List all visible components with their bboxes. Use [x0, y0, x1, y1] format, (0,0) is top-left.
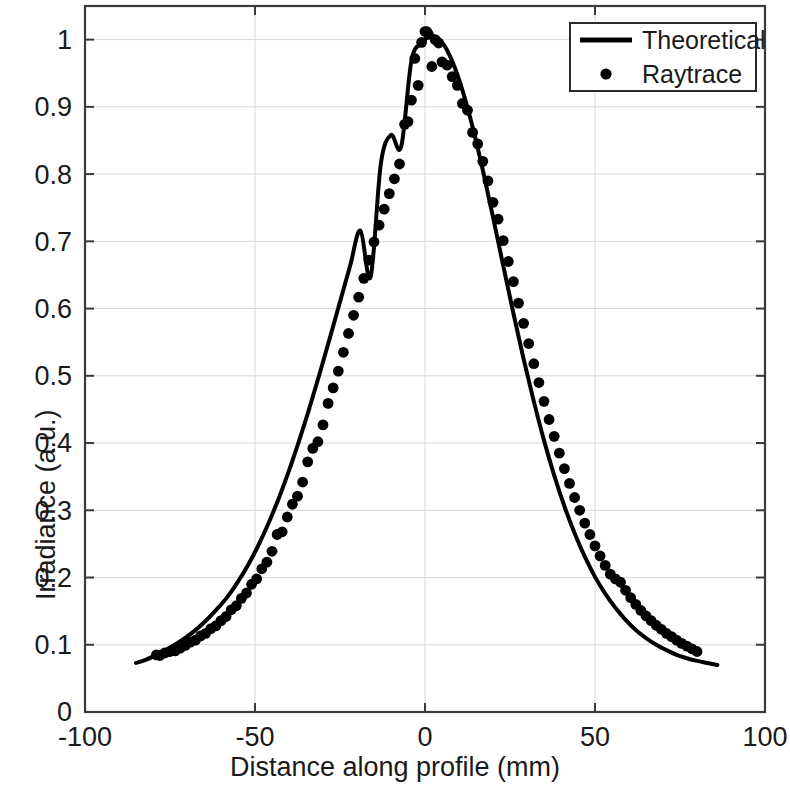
raytrace-point	[409, 53, 420, 64]
raytrace-point	[389, 173, 400, 184]
data-series	[136, 26, 717, 665]
y-tick-label: 0.6	[34, 294, 72, 324]
x-tick-label: 100	[742, 722, 787, 752]
raytrace-point	[579, 518, 590, 529]
raytrace-point	[302, 456, 313, 467]
raytrace-point	[338, 347, 349, 358]
raytrace-point	[472, 138, 483, 149]
x-axis-title: Distance along profile (mm)	[0, 752, 790, 783]
raytrace-point	[333, 366, 344, 377]
raytrace-point	[364, 255, 375, 266]
raytrace-point	[369, 237, 380, 248]
raytrace-point	[523, 338, 534, 349]
raytrace-point	[262, 557, 273, 568]
raytrace-point	[488, 197, 499, 208]
raytrace-point	[483, 175, 494, 186]
raytrace-point	[452, 80, 463, 91]
y-axis-title: Irradiance (a.u.)	[31, 409, 62, 600]
x-tick-label: 50	[580, 722, 610, 752]
raytrace-point	[353, 292, 364, 303]
raytrace-point	[297, 477, 308, 488]
raytrace-point	[574, 505, 585, 516]
legend-label: Raytrace	[642, 60, 742, 88]
raytrace-point	[518, 318, 529, 329]
raytrace-point	[348, 310, 359, 321]
raytrace-point	[498, 235, 509, 246]
raytrace-point	[374, 220, 385, 231]
raytrace-point	[508, 276, 519, 287]
raytrace-point	[433, 38, 444, 49]
x-tick-label: -100	[58, 722, 112, 752]
raytrace-point	[403, 116, 414, 127]
raytrace-point	[379, 204, 390, 215]
raytrace-point	[549, 431, 560, 442]
raytrace-point	[406, 95, 417, 106]
raytrace-point	[413, 80, 424, 91]
raytrace-point	[569, 492, 580, 503]
x-tick-label: -50	[235, 722, 274, 752]
y-tick-label: 0.1	[34, 630, 72, 660]
raytrace-point	[559, 463, 570, 474]
chart-figure: 00.10.20.30.40.50.60.70.80.91-100-500501…	[0, 0, 790, 799]
raytrace-point	[323, 398, 334, 409]
raytrace-point	[426, 61, 437, 72]
legend-dot-swatch	[600, 68, 611, 79]
legend-label: Theoretical	[642, 26, 766, 54]
raytrace-point	[292, 491, 303, 502]
y-tick-label: 0.5	[34, 361, 72, 391]
raytrace-point	[328, 383, 339, 394]
raytrace-point	[692, 646, 703, 657]
raytrace-point	[343, 328, 354, 339]
raytrace-point	[251, 573, 262, 584]
x-tick-label: 0	[417, 722, 432, 752]
raytrace-point	[442, 60, 453, 71]
raytrace-point	[318, 419, 329, 430]
raytrace-point	[267, 546, 278, 557]
raytrace-point	[477, 156, 488, 167]
raytrace-point	[462, 105, 473, 116]
raytrace-point	[384, 188, 395, 199]
raytrace-point	[277, 526, 288, 537]
raytrace-point	[585, 529, 596, 540]
raytrace-point	[554, 448, 565, 459]
gridlines	[85, 6, 765, 712]
y-tick-label: 0.8	[34, 160, 72, 190]
raytrace-point	[503, 256, 514, 267]
raytrace-point	[313, 436, 324, 447]
y-tick-label: 0.9	[34, 92, 72, 122]
raytrace-point	[564, 478, 575, 489]
y-tick-label: 0.7	[34, 227, 72, 257]
legend: TheoreticalRaytrace	[570, 23, 766, 91]
plot-canvas: 00.10.20.30.40.50.60.70.80.91-100-500501…	[0, 0, 790, 799]
theoretical-curve	[136, 36, 717, 665]
raytrace-point	[467, 127, 478, 138]
raytrace-point	[539, 396, 550, 407]
y-tick-label: 1	[57, 25, 72, 55]
raytrace-point	[528, 358, 539, 369]
raytrace-point	[544, 414, 555, 425]
raytrace-point	[358, 273, 369, 284]
raytrace-point	[590, 541, 601, 552]
raytrace-point	[394, 159, 405, 170]
raytrace-point	[493, 214, 504, 225]
raytrace-point	[595, 551, 606, 562]
raytrace-point	[282, 512, 293, 523]
raytrace-point	[534, 377, 545, 388]
raytrace-point	[513, 298, 524, 309]
